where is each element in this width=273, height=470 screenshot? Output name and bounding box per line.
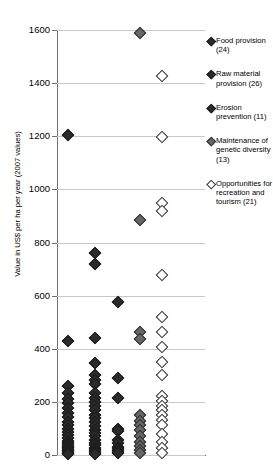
data-point bbox=[112, 372, 125, 385]
gridline bbox=[57, 30, 205, 31]
legend-item-label: Erosion prevention (11) bbox=[216, 103, 273, 121]
data-point bbox=[134, 214, 147, 227]
data-point bbox=[62, 129, 75, 142]
data-point bbox=[112, 295, 125, 308]
y-axis-tick-label: 0 bbox=[6, 450, 50, 460]
y-axis-tick-label: 400 bbox=[6, 344, 50, 354]
data-point bbox=[112, 392, 125, 405]
legend-marker-icon bbox=[207, 103, 216, 112]
data-point bbox=[134, 27, 147, 40]
gridline bbox=[57, 296, 205, 297]
y-axis-tick-label: 600 bbox=[6, 291, 50, 301]
y-axis-tick bbox=[52, 189, 57, 190]
legend-item[interactable]: Food provision (24) bbox=[208, 36, 273, 54]
gridline bbox=[57, 349, 205, 350]
data-point bbox=[156, 70, 169, 83]
data-point bbox=[156, 269, 169, 282]
scatter-chart: 16001400120010008006004002000 Value in U… bbox=[0, 0, 273, 470]
legend-item[interactable]: Raw material provision (26) bbox=[208, 69, 273, 87]
data-point bbox=[156, 356, 169, 369]
data-point bbox=[156, 311, 169, 324]
y-axis-tick bbox=[52, 455, 57, 456]
y-axis-tick bbox=[52, 296, 57, 297]
legend-item[interactable]: Erosion prevention (11) bbox=[208, 103, 273, 121]
gridline bbox=[57, 189, 205, 190]
legend-item[interactable]: Opportunities for recreation and tourism… bbox=[208, 179, 273, 207]
gridline bbox=[57, 243, 205, 244]
y-axis-tick bbox=[52, 30, 57, 31]
legend-item[interactable]: Maintenance of genetic diversity (13) bbox=[208, 136, 273, 164]
legend-item-label: Opportunities for recreation and tourism… bbox=[216, 179, 273, 207]
legend-item-label: Raw material provision (26) bbox=[216, 69, 273, 87]
legend-marker-icon bbox=[207, 70, 216, 79]
gridline bbox=[57, 83, 205, 84]
data-point bbox=[89, 332, 102, 345]
data-point bbox=[89, 357, 102, 370]
y-axis-tick-label: 1400 bbox=[6, 78, 50, 88]
gridline bbox=[57, 136, 205, 137]
legend-marker-icon bbox=[207, 137, 216, 146]
gridline bbox=[57, 402, 205, 403]
y-axis-tick bbox=[52, 136, 57, 137]
y-axis-tick bbox=[52, 83, 57, 84]
gridline bbox=[57, 455, 205, 456]
y-axis-tick bbox=[52, 402, 57, 403]
data-point bbox=[89, 258, 102, 271]
legend-item-label: Maintenance of genetic diversity (13) bbox=[216, 136, 273, 164]
data-point bbox=[62, 334, 75, 347]
data-point bbox=[156, 325, 169, 338]
y-axis-tick-label: 1600 bbox=[6, 25, 50, 35]
data-point bbox=[156, 340, 169, 353]
chart-legend: Food provision (24)Raw material provisio… bbox=[208, 36, 273, 221]
legend-marker-icon bbox=[207, 37, 216, 46]
legend-item-label: Food provision (24) bbox=[216, 36, 273, 54]
data-point bbox=[156, 204, 169, 217]
data-point bbox=[156, 368, 169, 381]
y-axis-tick bbox=[52, 349, 57, 350]
y-axis-title: Value in US$ per ha per year (2007 value… bbox=[14, 114, 22, 294]
y-axis-tick-label: 200 bbox=[6, 397, 50, 407]
legend-marker-icon bbox=[207, 179, 216, 188]
data-point bbox=[156, 130, 169, 143]
y-axis-tick bbox=[52, 243, 57, 244]
plot-area bbox=[57, 30, 205, 455]
